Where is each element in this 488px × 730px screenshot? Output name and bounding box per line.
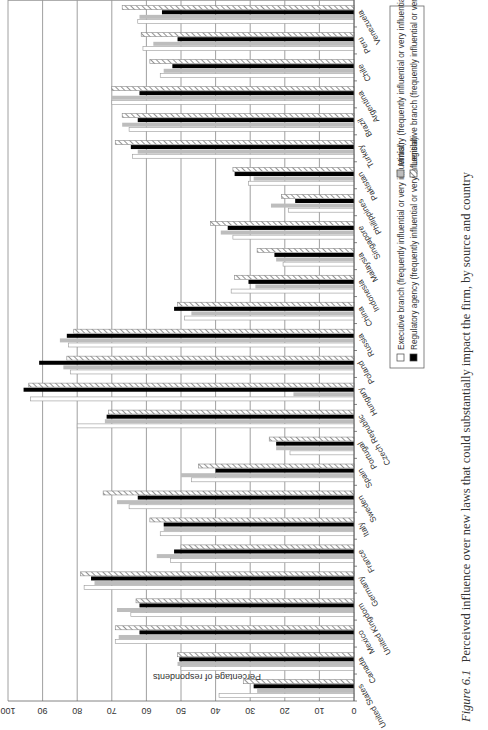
bar	[293, 392, 354, 396]
bar	[191, 311, 354, 315]
bar	[216, 469, 354, 473]
bar	[143, 46, 354, 50]
bar	[248, 280, 354, 284]
bar	[171, 559, 354, 563]
bar	[81, 572, 354, 576]
bar	[178, 37, 354, 41]
bar	[105, 419, 354, 423]
bar	[181, 473, 354, 477]
country-label: Russia	[356, 332, 377, 359]
bar	[160, 532, 354, 536]
bar	[191, 478, 354, 482]
bar	[172, 64, 354, 68]
legend-label-legislative: Legislative branch (frequently influenti…	[410, 0, 419, 166]
bar	[39, 361, 354, 365]
bar	[138, 19, 354, 23]
bar	[95, 581, 355, 585]
bar	[276, 446, 354, 450]
bar	[179, 657, 354, 661]
bar	[108, 410, 354, 414]
country-label: Canada	[356, 655, 378, 685]
bar	[133, 154, 354, 158]
country-label: Pakistan	[356, 170, 380, 202]
bar	[138, 118, 354, 122]
bar	[288, 208, 354, 212]
legend-label-regulatory: Regulatory agency (frequently influentia…	[410, 137, 419, 350]
legend-swatch-ministry	[397, 170, 404, 177]
y-tick-label: 80	[72, 706, 82, 716]
bar	[274, 253, 354, 257]
bar	[181, 667, 354, 671]
bar	[74, 329, 354, 333]
bar	[122, 6, 354, 10]
bar	[91, 576, 354, 580]
bar	[122, 114, 354, 118]
legend-label-ministry: Ministry (frequently influential or very…	[397, 0, 406, 166]
bar	[174, 549, 354, 553]
bar	[164, 527, 354, 531]
bar	[283, 262, 354, 266]
country-label: Germany	[355, 574, 380, 608]
bar	[141, 33, 354, 37]
y-tick-label: 70	[107, 706, 117, 716]
bar	[210, 221, 354, 225]
bar	[139, 603, 354, 607]
bar	[219, 694, 354, 698]
bar	[67, 356, 354, 360]
bar	[117, 500, 354, 504]
bar	[228, 226, 354, 230]
y-tick-label: 90	[38, 706, 48, 716]
bar	[164, 69, 354, 73]
bar	[271, 204, 354, 208]
country-label: Italy	[355, 520, 371, 538]
bar	[112, 87, 354, 91]
caption-text: Perceived influence over new laws that c…	[459, 171, 473, 662]
bar	[178, 662, 354, 666]
bar	[122, 123, 354, 127]
bar	[235, 275, 354, 279]
y-tick-label: 100	[0, 706, 15, 716]
bar	[233, 235, 354, 239]
country-label: Poland	[356, 359, 377, 386]
country-label: United States	[356, 683, 388, 730]
bar	[231, 289, 354, 293]
bar	[178, 302, 354, 306]
bar	[131, 613, 354, 617]
country-label: Hungary	[355, 385, 379, 417]
bar	[138, 496, 354, 500]
bar	[153, 42, 354, 46]
y-axis: 0102030405060708090100	[0, 706, 356, 716]
country-label: Chile	[356, 62, 373, 83]
bar	[136, 599, 354, 603]
y-tick-label: 10	[314, 706, 324, 716]
bar	[112, 100, 354, 104]
bar	[67, 334, 354, 338]
bar	[115, 640, 354, 644]
country-label: Sweden	[356, 493, 379, 524]
bar	[254, 177, 354, 181]
legend: Executive branch (frequently influential…	[390, 0, 424, 368]
bar	[295, 199, 354, 203]
bar	[150, 518, 354, 522]
bar	[138, 150, 354, 154]
bar	[255, 284, 354, 288]
bar	[181, 545, 354, 549]
bar	[115, 140, 354, 144]
bar	[233, 167, 354, 171]
bar	[269, 437, 354, 441]
bar	[139, 630, 354, 634]
bar	[112, 96, 354, 100]
bar	[63, 365, 354, 369]
bar	[84, 586, 354, 590]
bar-chart: 0102030405060708090100 United StatesCana…	[0, 0, 488, 730]
bar	[281, 194, 354, 198]
bar	[119, 635, 354, 639]
bar	[254, 684, 354, 688]
bar	[174, 307, 354, 311]
svg-text:Figure 6.1 Perceived i: Figure 6.1 Perceived influence over new …	[459, 171, 473, 723]
bar	[221, 231, 354, 235]
y-tick-label: 20	[280, 706, 290, 716]
bar	[129, 505, 354, 509]
bar	[257, 689, 354, 693]
x-axis-country-labels: United StatesCanadaMexicoUnited KingdomG…	[354, 0, 393, 730]
